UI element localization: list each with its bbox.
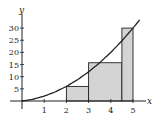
y-tick-label: 20 xyxy=(9,48,19,57)
x-tick-label: 5 xyxy=(130,106,135,115)
y-tick-label: 15 xyxy=(9,61,19,70)
y-tick-label: 10 xyxy=(9,73,19,82)
x-tick-label: 3 xyxy=(86,106,91,115)
y-tick-label: 25 xyxy=(9,36,19,45)
riemann-sum-chart: x y 1234551015202530 xyxy=(0,0,157,120)
y-tick-label: 30 xyxy=(9,24,19,33)
x-tick-label: 1 xyxy=(42,106,47,115)
y-tick-label: 5 xyxy=(14,85,19,94)
x-axis-label: x xyxy=(147,96,152,106)
x-tick-label: 2 xyxy=(64,106,69,115)
rectangle-1 xyxy=(66,86,88,101)
y-axis-label: y xyxy=(18,5,25,15)
x-tick-label: 4 xyxy=(108,106,113,115)
